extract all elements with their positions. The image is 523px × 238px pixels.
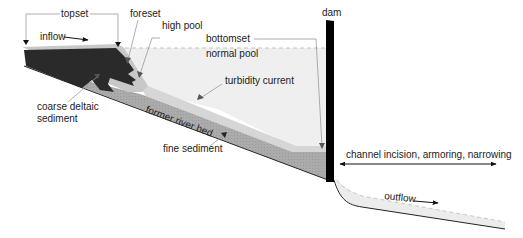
topset-left-marker-icon — [23, 40, 29, 45]
outflow-water — [335, 178, 505, 229]
channel-effects-label: channel incision, armoring, narrowing — [346, 149, 512, 160]
bottomset-label: bottomset — [206, 33, 250, 44]
fine-sediment-label: fine sediment — [163, 143, 223, 154]
coarse-sediment-label-line1: coarse deltaic — [37, 101, 99, 112]
turbidity-current-label: turbidity current — [225, 75, 294, 86]
topset-bracket-right — [90, 14, 118, 42]
foreset-label: foreset — [130, 8, 161, 19]
inflow-label: inflow — [40, 31, 66, 42]
coarse-sediment-label-line2: sediment — [37, 113, 78, 124]
inflow-arrow-icon — [64, 37, 88, 40]
outflow-arrow-icon — [414, 201, 438, 203]
dam — [326, 20, 334, 182]
dam-label: dam — [322, 7, 341, 18]
reservoir-sedimentation-diagram: topset foreset high pool bottomset norma… — [0, 0, 523, 238]
topset-label: topset — [61, 8, 88, 19]
high-pool-label: high pool — [162, 20, 203, 31]
normal-pool-label: normal pool — [206, 48, 258, 59]
